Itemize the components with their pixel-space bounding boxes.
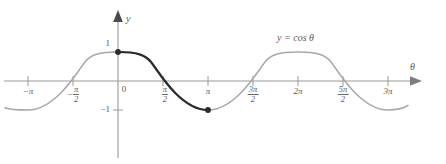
x-tick-label-pi-over-2: π2: [162, 85, 168, 104]
cosine-graph-figure: y θ y = cos θ 1 −1 −π 0 π 2π 3π −π2 π2 3…: [0, 0, 446, 164]
fraction-denominator: 2: [248, 95, 259, 104]
x-tick-label-3pi-over-2: 3π2: [248, 85, 259, 104]
x-axis-label: θ: [410, 62, 415, 72]
fraction-denominator: 2: [162, 95, 168, 104]
y-axis-label: y: [126, 14, 130, 24]
x-tick-label-pi: π: [206, 87, 211, 96]
x-tick-label-2pi: 2π: [293, 87, 302, 96]
x-tick-label-neg-pi: −π: [23, 87, 34, 96]
fraction-denominator: 2: [73, 95, 79, 104]
function-label: y = cos θ: [277, 33, 314, 43]
fraction-pi-2: π2: [162, 85, 168, 104]
endpoint-dot-origin: [115, 49, 121, 55]
fraction-denominator: 2: [338, 95, 349, 104]
y-tick-label-neg1: −1: [92, 105, 110, 114]
plot-canvas: [0, 0, 446, 164]
fraction-neg-pi-2: π2: [73, 85, 79, 104]
x-tick-label-neg-pi-over-2: −π2: [67, 85, 79, 104]
y-axis-arrowhead: [113, 10, 123, 22]
fraction-5pi-2: 5π2: [338, 85, 349, 104]
x-tick-label-3pi: 3π: [383, 87, 392, 96]
y-tick-label-1: 1: [96, 39, 110, 48]
x-axis-arrowhead: [410, 76, 422, 86]
x-tick-label-zero: 0: [122, 85, 127, 94]
x-tick-label-5pi-over-2: 5π2: [338, 85, 349, 104]
endpoint-dot-pi: [205, 107, 211, 113]
fraction-3pi-2: 3π2: [248, 85, 259, 104]
